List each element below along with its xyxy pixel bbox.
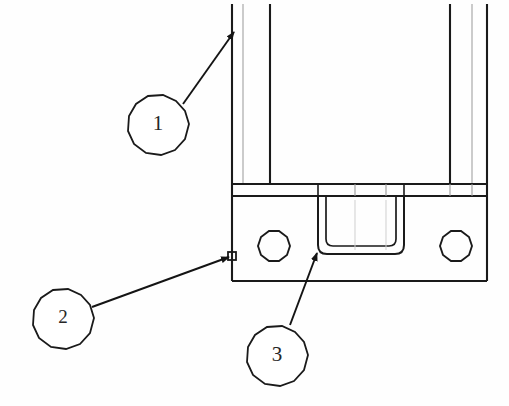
body-profile-group: [232, 4, 487, 196]
drawing-vector-surface: 1 2 3: [0, 0, 509, 406]
callout-1-label: 1: [153, 111, 164, 135]
callout-2-group[interactable]: 2: [33, 257, 229, 349]
callout-2-leader-line: [92, 257, 229, 307]
callout-3-group[interactable]: 3: [247, 253, 317, 386]
technical-drawing-canvas: 1 2 3: [0, 0, 509, 406]
horizontal-band-group: [232, 184, 487, 200]
mounting-hole-right: [440, 231, 472, 261]
callout-1-leader-line: [183, 32, 234, 104]
u-notch-group: [318, 196, 404, 254]
callout-2-label: 2: [58, 306, 68, 327]
callout-3-label: 3: [272, 342, 283, 366]
mounting-hole-left: [258, 231, 290, 261]
flange-plate-group: [232, 196, 487, 281]
callout-1-group[interactable]: 1: [128, 32, 234, 155]
callout-3-leader-line: [290, 253, 317, 325]
